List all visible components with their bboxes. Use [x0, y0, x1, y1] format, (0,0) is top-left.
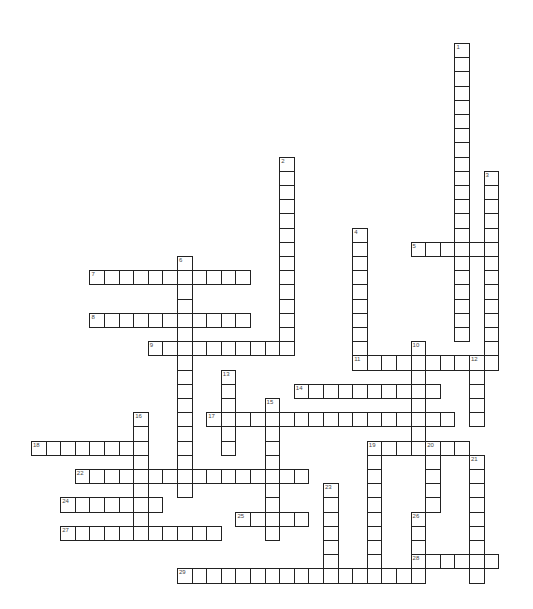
crossword-cell[interactable]: [235, 469, 251, 484]
crossword-cell[interactable]: [265, 483, 281, 498]
crossword-cell[interactable]: [265, 455, 281, 470]
crossword-cell[interactable]: [235, 341, 251, 356]
crossword-cell[interactable]: [60, 441, 76, 456]
crossword-cell[interactable]: [75, 497, 91, 512]
crossword-cell[interactable]: [367, 554, 383, 569]
crossword-cell[interactable]: [338, 568, 354, 583]
crossword-cell[interactable]: [279, 299, 295, 314]
crossword-cell[interactable]: [206, 469, 222, 484]
crossword-cell[interactable]: [469, 242, 485, 257]
crossword-cell[interactable]: [484, 228, 500, 243]
crossword-cell[interactable]: [177, 455, 193, 470]
crossword-cell[interactable]: [221, 469, 237, 484]
crossword-cell[interactable]: [294, 469, 310, 484]
crossword-cell[interactable]: [265, 526, 281, 541]
crossword-cell[interactable]: [454, 299, 470, 314]
crossword-cell[interactable]: [396, 384, 412, 399]
crossword-cell[interactable]: [250, 341, 266, 356]
crossword-cell[interactable]: [425, 554, 441, 569]
crossword-cell[interactable]: [396, 355, 412, 370]
crossword-cell[interactable]: [250, 512, 266, 527]
crossword-cell[interactable]: [454, 327, 470, 342]
crossword-cell[interactable]: [367, 568, 383, 583]
crossword-cell[interactable]: [352, 284, 368, 299]
crossword-cell[interactable]: [381, 412, 397, 427]
crossword-cell[interactable]: [279, 171, 295, 186]
crossword-cell[interactable]: [119, 469, 135, 484]
crossword-cell[interactable]: 14: [294, 384, 310, 399]
crossword-cell[interactable]: [367, 512, 383, 527]
crossword-cell[interactable]: [192, 568, 208, 583]
crossword-cell[interactable]: 18: [31, 441, 47, 456]
crossword-cell[interactable]: [469, 554, 485, 569]
crossword-cell[interactable]: [411, 426, 427, 441]
crossword-cell[interactable]: [250, 469, 266, 484]
crossword-cell[interactable]: 29: [177, 568, 193, 583]
crossword-cell[interactable]: [206, 341, 222, 356]
crossword-cell[interactable]: [411, 384, 427, 399]
crossword-cell[interactable]: [75, 526, 91, 541]
crossword-cell[interactable]: [279, 199, 295, 214]
crossword-cell[interactable]: [206, 526, 222, 541]
crossword-cell[interactable]: 11: [352, 355, 368, 370]
crossword-cell[interactable]: 23: [323, 483, 339, 498]
crossword-cell[interactable]: [221, 398, 237, 413]
crossword-cell[interactable]: [484, 327, 500, 342]
crossword-cell[interactable]: [425, 384, 441, 399]
crossword-cell[interactable]: [148, 313, 164, 328]
crossword-cell[interactable]: [148, 497, 164, 512]
crossword-cell[interactable]: [133, 526, 149, 541]
crossword-cell[interactable]: 17: [206, 412, 222, 427]
crossword-cell[interactable]: [177, 384, 193, 399]
crossword-cell[interactable]: [133, 512, 149, 527]
crossword-cell[interactable]: 10: [411, 341, 427, 356]
crossword-cell[interactable]: 9: [148, 341, 164, 356]
crossword-cell[interactable]: 2: [279, 157, 295, 172]
crossword-cell[interactable]: [469, 469, 485, 484]
crossword-cell[interactable]: 6: [177, 256, 193, 271]
crossword-cell[interactable]: [133, 270, 149, 285]
crossword-cell[interactable]: [352, 568, 368, 583]
crossword-cell[interactable]: [221, 270, 237, 285]
crossword-cell[interactable]: [192, 526, 208, 541]
crossword-cell[interactable]: [352, 270, 368, 285]
crossword-cell[interactable]: [235, 313, 251, 328]
crossword-cell[interactable]: [279, 469, 295, 484]
crossword-cell[interactable]: [148, 469, 164, 484]
crossword-cell[interactable]: [323, 384, 339, 399]
crossword-cell[interactable]: [323, 540, 339, 555]
crossword-cell[interactable]: [177, 341, 193, 356]
crossword-cell[interactable]: [104, 497, 120, 512]
crossword-cell[interactable]: [323, 568, 339, 583]
crossword-cell[interactable]: [454, 213, 470, 228]
crossword-cell[interactable]: [177, 299, 193, 314]
crossword-cell[interactable]: [352, 299, 368, 314]
crossword-cell[interactable]: [104, 313, 120, 328]
crossword-cell[interactable]: 19: [367, 441, 383, 456]
crossword-cell[interactable]: [177, 469, 193, 484]
crossword-cell[interactable]: [133, 313, 149, 328]
crossword-cell[interactable]: [177, 284, 193, 299]
crossword-cell[interactable]: [338, 384, 354, 399]
crossword-cell[interactable]: [265, 469, 281, 484]
crossword-cell[interactable]: [440, 355, 456, 370]
crossword-cell[interactable]: [162, 270, 178, 285]
crossword-cell[interactable]: [279, 412, 295, 427]
crossword-cell[interactable]: [104, 469, 120, 484]
crossword-cell[interactable]: [367, 355, 383, 370]
crossword-cell[interactable]: 15: [265, 398, 281, 413]
crossword-cell[interactable]: 27: [60, 526, 76, 541]
crossword-cell[interactable]: [279, 313, 295, 328]
crossword-cell[interactable]: [250, 412, 266, 427]
crossword-cell[interactable]: [454, 284, 470, 299]
crossword-cell[interactable]: [104, 270, 120, 285]
crossword-cell[interactable]: 24: [60, 497, 76, 512]
crossword-cell[interactable]: [381, 384, 397, 399]
crossword-cell[interactable]: [454, 242, 470, 257]
crossword-cell[interactable]: [177, 370, 193, 385]
crossword-cell[interactable]: [484, 299, 500, 314]
crossword-cell[interactable]: [177, 483, 193, 498]
crossword-cell[interactable]: [411, 540, 427, 555]
crossword-cell[interactable]: 16: [133, 412, 149, 427]
crossword-cell[interactable]: [454, 86, 470, 101]
